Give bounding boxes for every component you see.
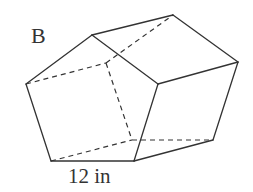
hidden-edge-left-to-hidden-top	[26, 63, 106, 84]
hidden-edges	[26, 15, 213, 161]
hidden-edge-hidden-top-to-back-top	[106, 15, 173, 63]
edge-back-top-to-right	[173, 15, 238, 62]
figure-label: B	[31, 25, 46, 47]
edge-bottom-right-to-back	[134, 140, 213, 161]
hidden-edge-vertical	[106, 63, 132, 140]
edge-middle-to-right	[158, 62, 238, 84]
hidden-edge-bottom-left-to-hidden-bottom	[51, 140, 132, 161]
edge-left-to-bottom-left	[26, 84, 51, 161]
prism-diagram: B 12 in	[0, 0, 253, 192]
edge-front-top-to-middle	[92, 35, 158, 84]
dimension-label: 12 in	[68, 166, 111, 187]
edge-middle-to-bottom-right	[134, 84, 158, 161]
edge-front-top-to-back-top	[92, 15, 173, 35]
edge-right-to-back-bottom	[213, 62, 238, 140]
visible-edges	[26, 15, 238, 161]
